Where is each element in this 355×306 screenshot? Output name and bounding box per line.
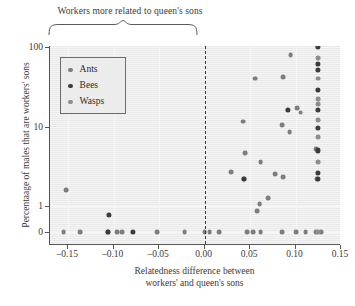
x-tick-mark [113,245,114,249]
x-tick-label: 0.15 [318,249,355,259]
y-tick-label: 1 [17,201,43,211]
legend-box: Ants Bees Wasps [60,57,126,114]
data-point [316,76,321,81]
data-point [273,172,278,177]
gridline-vertical [159,46,160,244]
gridline-horizontal [50,127,340,128]
x-tick-mark [204,245,205,249]
x-tick-label: –0.15 [45,249,89,259]
legend-marker-wasps-icon [68,100,73,105]
legend-item-ants[interactable]: Ants [68,62,98,78]
x-tick-mark [340,245,341,249]
legend-marker-bees-icon [68,84,73,89]
data-point [61,230,66,235]
x-axis-title: Relatedness difference between workers' … [49,266,340,289]
data-point [182,230,187,235]
data-point [251,230,256,235]
legend-marker-ants-icon [68,68,73,73]
data-point [279,230,284,235]
data-point [207,230,212,235]
data-point [106,213,111,218]
data-point [316,126,321,131]
data-point [281,175,286,180]
data-point [298,110,303,115]
data-point [316,148,321,153]
y-tick-label: 0 [17,227,43,237]
data-point [253,76,258,81]
data-point [294,230,299,235]
data-point [316,176,321,181]
x-tick-mark [67,245,68,249]
x-tick-label: –0.05 [136,249,180,259]
data-point [120,230,125,235]
x-tick-mark [249,245,250,249]
data-point [316,170,321,175]
data-point [255,209,260,214]
y-tick-mark [45,47,49,48]
data-point [131,229,136,234]
zero-reference-line [205,46,206,244]
y-tick-mark [45,127,49,128]
data-point [217,230,222,235]
legend-label-bees: Bees [80,81,98,91]
data-point [64,187,69,192]
legend-item-bees[interactable]: Bees [68,78,98,94]
data-point [316,56,321,61]
y-tick-mark [45,232,49,233]
y-tick-label: 100 [17,42,43,52]
x-axis-title-line1: Relatedness difference between [49,266,340,278]
data-point [281,75,286,80]
data-point [316,134,321,139]
data-point [243,151,248,156]
data-point [316,61,321,66]
legend-label-ants: Ants [80,65,98,75]
data-point [241,119,246,124]
data-point [245,230,250,235]
curly-brace-down-icon [48,20,198,36]
legend-item-wasps[interactable]: Wasps [68,94,104,110]
data-point [257,202,262,207]
x-tick-label: 0.05 [227,249,271,259]
x-tick-mark [158,245,159,249]
data-point [287,130,292,135]
x-tick-label: –0.10 [91,249,135,259]
data-point [258,230,263,235]
y-tick-mark [45,206,49,207]
gridline-horizontal [50,47,340,48]
y-tick-label: 10 [17,122,43,132]
data-point [316,46,321,50]
data-point [316,118,321,123]
data-point [303,230,308,235]
data-point [78,230,83,235]
scatter-plot-figure: Workers more related to queen's sons Per… [0,0,355,306]
data-point [258,159,263,164]
y-axis-title: Percentaage of males that are workers' s… [21,45,31,245]
gridline-vertical [250,46,251,244]
data-point [315,230,320,235]
data-point [316,67,321,72]
data-point [288,53,293,58]
data-point [280,122,285,127]
data-point [229,169,234,174]
data-point [316,87,321,92]
x-tick-mark [295,245,296,249]
data-point [316,159,321,164]
gridline-vertical [296,46,297,244]
data-point [316,108,321,113]
gridline-horizontal [50,206,340,207]
legend-label-wasps: Wasps [80,97,105,107]
data-point [155,230,160,235]
data-point [265,196,270,201]
brace-annotation-label: Workers more related to queen's sons [30,6,230,16]
x-axis-title-line2: workers' and queen's sons [49,278,340,290]
data-point [316,102,321,107]
x-tick-label: 0.00 [182,249,226,259]
x-tick-label: 0.10 [273,249,317,259]
data-point [285,108,290,113]
data-point [114,230,119,235]
